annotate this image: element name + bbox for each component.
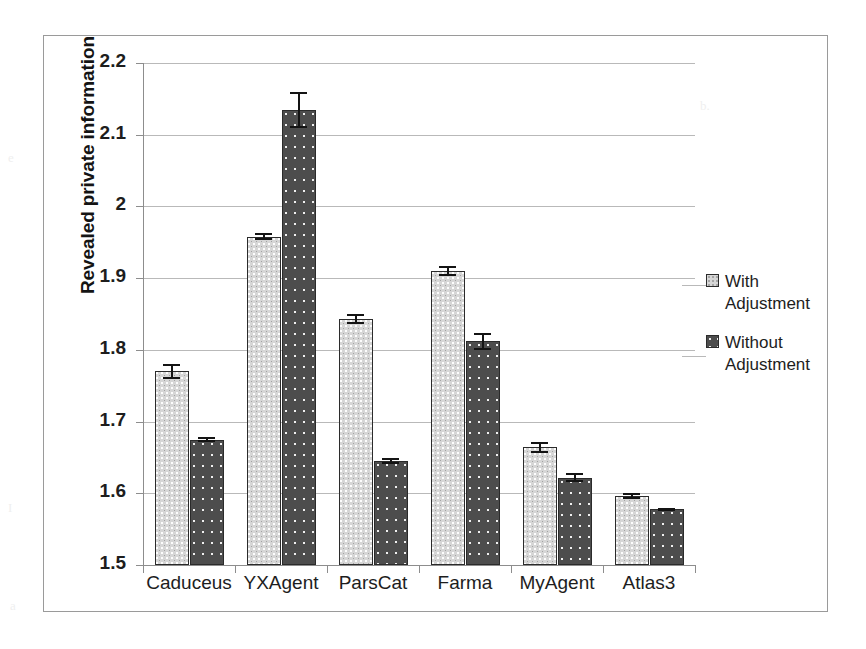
legend-swatch-icon-with-adjustment [706, 274, 719, 287]
y-axis-tick [136, 278, 143, 279]
bar-yxagent-with-adjustment [247, 237, 281, 565]
x-axis-tick [143, 565, 144, 573]
bar-yxagent-without-adjustment [282, 110, 316, 565]
chart-figure: b. e I a Revealed private information 1.… [0, 0, 866, 649]
legend-label-with-adjustment: With Adjustment [725, 271, 810, 315]
legend-connector-line [682, 285, 706, 286]
y-axis-tick-label: 2.2 [78, 50, 126, 72]
scan-artifact: e [8, 150, 14, 166]
y-axis-tick [136, 565, 143, 566]
error-bar [163, 364, 180, 378]
error-bar [290, 92, 307, 128]
x-axis-tick-label-farma: Farma [419, 572, 511, 594]
x-axis-tick-label-myagent: MyAgent [511, 572, 603, 594]
y-axis-tick [136, 206, 143, 207]
scan-artifact: I [8, 500, 12, 516]
y-axis-tick-label: 2 [78, 193, 126, 215]
y-axis-tick [136, 350, 143, 351]
error-bar [439, 266, 456, 276]
legend-swatch-icon-without-adjustment [706, 335, 719, 348]
error-bar [658, 508, 675, 511]
bar-atlas3-without-adjustment [650, 509, 684, 565]
error-bar [623, 493, 640, 499]
legend-item-with-adjustment[interactable]: With Adjustment [706, 271, 818, 315]
y-axis-tick-label: 1.8 [78, 337, 126, 359]
legend-item-without-adjustment[interactable]: Without Adjustment [706, 332, 818, 376]
error-bar [255, 233, 272, 240]
error-bar [531, 442, 548, 453]
x-axis-tick [695, 565, 696, 573]
legend-label-without-adjustment: Without Adjustment [725, 332, 810, 376]
error-bar [566, 473, 583, 482]
bar-myagent-without-adjustment [558, 478, 592, 565]
bar-farma-with-adjustment [431, 271, 465, 565]
error-bar [198, 437, 215, 441]
y-axis-tick-label: 2.1 [78, 122, 126, 144]
x-axis-tick-label-yxagent: YXAgent [235, 572, 327, 594]
legend-label-line2: Adjustment [725, 294, 810, 313]
scan-artifact: a [10, 598, 16, 614]
bar-parscat-without-adjustment [374, 461, 408, 565]
y-axis-tick-label: 1.7 [78, 409, 126, 431]
error-bar [474, 333, 491, 350]
bar-parscat-with-adjustment [339, 319, 373, 565]
chart-legend: With Adjustment Without Adjustment [706, 271, 818, 393]
x-axis-tick-label-caduceus: Caduceus [143, 572, 235, 594]
y-axis-tick-label: 1.9 [78, 265, 126, 287]
legend-connector-line [682, 356, 706, 357]
bar-atlas3-with-adjustment [615, 496, 649, 565]
bar-caduceus-without-adjustment [190, 440, 224, 566]
bar-caduceus-with-adjustment [155, 371, 189, 565]
y-axis-tick-label: 1.6 [78, 480, 126, 502]
legend-label-line1: With [725, 272, 759, 291]
legend-label-line2: Adjustment [725, 355, 810, 374]
y-axis-tick [136, 135, 143, 136]
y-axis-tick [136, 422, 143, 423]
error-bar [382, 458, 399, 464]
bar-myagent-with-adjustment [523, 447, 557, 565]
y-axis-tick-label: 1.5 [78, 552, 126, 574]
y-axis-tick [136, 493, 143, 494]
x-axis-tick-label-parscat: ParsCat [327, 572, 419, 594]
y-axis-tick [136, 63, 143, 64]
error-bar [347, 314, 364, 324]
plot-area [143, 63, 695, 565]
x-axis-tick-label-atlas3: Atlas3 [603, 572, 695, 594]
legend-label-line1: Without [725, 333, 783, 352]
bar-farma-without-adjustment [466, 341, 500, 565]
